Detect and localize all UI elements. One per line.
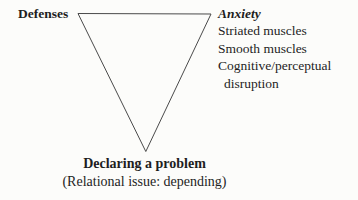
bottom-caption: Declaring a problem (Relational issue: d… [14, 155, 275, 190]
declaring-a-problem-label: Declaring a problem [14, 155, 275, 173]
anxiety-label: Anxiety [218, 5, 356, 22]
anxiety-item-cognitive-perceptual-disruption: Cognitive/perceptual disruption [218, 57, 356, 92]
triangle-outline [78, 14, 211, 152]
anxiety-item-smooth-muscles: Smooth muscles [218, 40, 356, 57]
defenses-label: Defenses [18, 6, 68, 22]
relational-issue-label: (Relational issue: depending) [14, 173, 275, 191]
anxiety-block: Anxiety Striated muscles Smooth muscles … [218, 5, 356, 92]
anxiety-item-striated-muscles: Striated muscles [218, 22, 356, 39]
triangle-of-conflict-diagram: Defenses Anxiety Striated muscles Smooth… [0, 0, 358, 200]
